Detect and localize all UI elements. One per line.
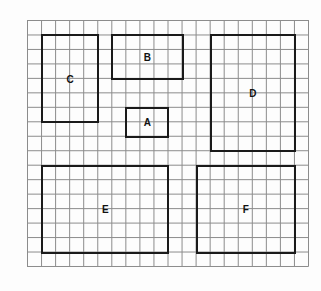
rectangle-b: B [111,34,183,79]
rectangle-c: C [41,34,99,123]
label-c: C [67,73,74,84]
rectangle-f: F [196,165,296,254]
label-a: A [144,117,151,128]
label-f: F [243,204,249,215]
label-d: D [249,88,256,99]
rectangle-a: A [125,107,169,138]
label-e: E [102,204,109,215]
label-b: B [144,52,151,63]
rectangle-d: D [210,34,296,152]
rectangle-e: E [41,165,169,254]
